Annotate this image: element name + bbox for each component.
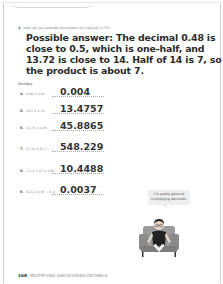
problem-item: 7. 67.10 × 8.17 548.229 (18, 140, 158, 152)
problem-number: 4. (20, 92, 24, 96)
page-number: 168 (18, 273, 27, 278)
page-footer: 168MULTIPLYING AND DIVIDING DECIMALS (18, 273, 107, 278)
problem-expression: 67.10 × 8.17 (26, 147, 47, 151)
problem-answer: 10.4488 (60, 163, 103, 174)
problem-expression: 0.08 × 0.05 (26, 92, 45, 96)
problem-number: 8. (20, 169, 24, 173)
problem-number: 6. (20, 126, 24, 130)
image-credit (211, 225, 214, 253)
footer-text: MULTIPLYING AND DIVIDING DECIMALS (30, 273, 107, 278)
worksheet-page: 3.How can you estimate the product of 0.… (3, 2, 221, 283)
problem-answer: 45.8865 (60, 120, 103, 131)
problem-item: 4. 0.08 × 0.05 0.004 (18, 85, 158, 97)
question-text: How can you estimate the product of 0.48… (23, 26, 109, 30)
problem-answer: 13.4757 (60, 103, 103, 114)
problem-answer: 0.0037 (60, 184, 97, 195)
problem-item: 9. 0.21 × 0.97 − 0.2 0.0037 (18, 183, 158, 195)
problem-item: 5. 2.07 × 6.51 13.4757 (18, 102, 158, 114)
speech-bubble: I'm pretty good at multiplying decimals. (148, 190, 190, 205)
question-3-answer: Possible answer: The decimal 0.48 is clo… (26, 32, 222, 76)
student-in-armchair-icon (137, 216, 181, 258)
question-number: 3. (18, 26, 21, 30)
problem-expression: 7.2 × 1.51 × 0.96 (26, 169, 55, 173)
problem-expression: 0.21 × 0.97 − 0.2 (26, 190, 55, 194)
page-decoration (12, 1, 92, 8)
problem-number: 5. (20, 109, 24, 113)
problem-number: 7. (20, 147, 24, 151)
problem-number: 9. (20, 190, 24, 194)
problem-answer: 0.004 (60, 86, 90, 97)
problem-expression: 11.33 × 4.05 (26, 126, 47, 130)
question-3-prompt: 3.How can you estimate the product of 0.… (18, 26, 110, 30)
problem-item: 8. 7.2 × 1.51 × 0.96 10.4488 (18, 162, 158, 174)
problem-expression: 2.07 × 6.51 (26, 109, 45, 113)
problem-item: 6. 11.33 × 4.05 45.8865 (18, 119, 158, 131)
problem-answer: 548.229 (60, 141, 103, 152)
